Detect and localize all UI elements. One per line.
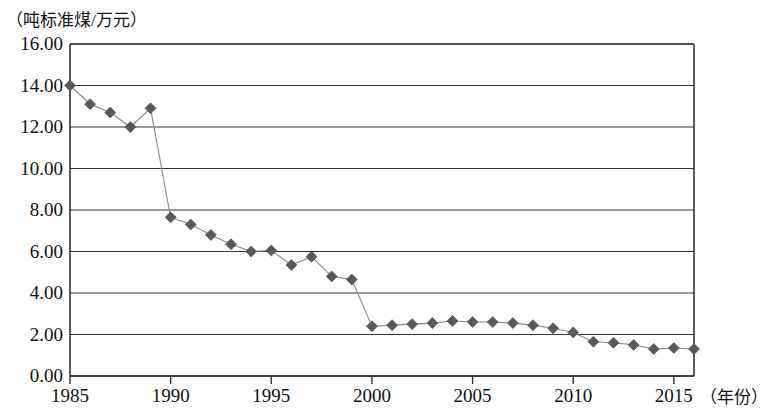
data-point-marker — [286, 259, 297, 270]
data-point-marker — [185, 219, 196, 230]
data-point-marker — [588, 336, 599, 347]
data-point-marker — [608, 337, 619, 348]
data-point-marker — [246, 246, 257, 257]
data-point-marker — [366, 321, 377, 332]
data-point-marker — [427, 318, 438, 329]
series-line — [70, 86, 694, 350]
plot-area — [0, 0, 769, 413]
data-point-marker — [668, 342, 679, 353]
data-point-marker — [447, 316, 458, 327]
data-point-marker — [387, 320, 398, 331]
data-point-marker — [527, 320, 538, 331]
data-point-marker — [165, 212, 176, 223]
data-point-marker — [346, 274, 357, 285]
data-point-marker — [548, 323, 559, 334]
data-point-marker — [689, 344, 700, 355]
data-point-marker — [105, 107, 116, 118]
data-point-marker — [568, 327, 579, 338]
data-point-marker — [205, 229, 216, 240]
data-point-marker — [487, 317, 498, 328]
data-point-markers — [65, 80, 700, 355]
data-point-marker — [467, 317, 478, 328]
data-point-marker — [266, 245, 277, 256]
data-point-marker — [407, 319, 418, 330]
data-line-series — [70, 86, 694, 350]
x-axis-ticks — [70, 376, 674, 384]
data-point-marker — [628, 339, 639, 350]
chart-figure: （吨标准煤/万元） （年份） 0.002.004.006.008.0010.00… — [0, 0, 769, 413]
data-point-marker — [507, 318, 518, 329]
data-point-marker — [648, 344, 659, 355]
data-point-marker — [226, 239, 237, 250]
